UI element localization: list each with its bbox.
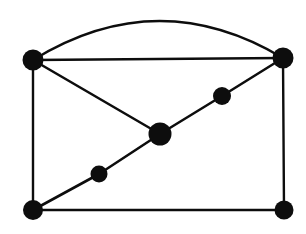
bottom-right-vertex — [275, 201, 294, 220]
upper-diagonal-vertex — [213, 87, 231, 105]
top-horizontal-edge — [33, 58, 283, 60]
upper-diagonal-to-top-right-edge — [222, 58, 283, 96]
bottom-left-vertex — [23, 200, 43, 220]
arc-top-left-to-top-right — [33, 21, 283, 60]
center-vertex — [149, 123, 172, 146]
graph-diagram — [0, 0, 306, 234]
figure-root — [0, 0, 306, 234]
lower-diagonal-vertex — [91, 166, 108, 183]
edge-layer — [33, 21, 284, 210]
top-right-vertex — [273, 48, 294, 69]
bottom-left-to-lower-diagonal-edge — [33, 174, 99, 210]
right-vertical-edge — [283, 58, 284, 210]
top-left-vertex — [23, 50, 44, 71]
top-left-to-center-edge — [33, 60, 160, 134]
